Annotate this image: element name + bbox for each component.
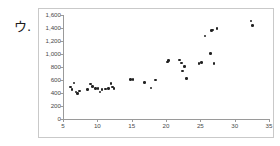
scatter-point: [167, 59, 170, 62]
scatter-point: [110, 82, 113, 85]
scatter-point: [213, 62, 216, 65]
scatter-point: [73, 82, 76, 85]
scatter-point: [209, 52, 212, 55]
scatter-point: [183, 65, 186, 68]
scatter-point: [99, 91, 102, 94]
scatter-point: [113, 87, 116, 90]
scatter-point: [250, 20, 253, 23]
scatter-point: [143, 81, 146, 84]
scatter-point: [132, 78, 135, 81]
scatter-point: [204, 35, 207, 38]
scatter-point: [97, 87, 100, 90]
scatter-point: [154, 79, 157, 82]
scatter-point: [76, 92, 79, 95]
scatter-point: [251, 24, 254, 27]
scatter-points: [39, 9, 275, 139]
scatter-point: [150, 87, 153, 90]
figure-container: ウ. 02004006008001,0001,2001,4001,600 510…: [0, 0, 280, 146]
scatter-point: [200, 61, 203, 64]
chart-frame: 02004006008001,0001,2001,4001,600 510152…: [38, 8, 274, 138]
scatter-point: [216, 27, 219, 30]
scatter-point: [181, 70, 184, 73]
scatter-point: [101, 88, 104, 91]
scatter-point: [107, 87, 110, 90]
plot-area: 02004006008001,0001,2001,4001,600 510152…: [39, 9, 275, 139]
scatter-point: [211, 29, 214, 32]
scatter-point: [180, 62, 183, 65]
scatter-point: [71, 88, 74, 91]
scatter-point: [185, 77, 188, 80]
scatter-point: [86, 88, 89, 91]
